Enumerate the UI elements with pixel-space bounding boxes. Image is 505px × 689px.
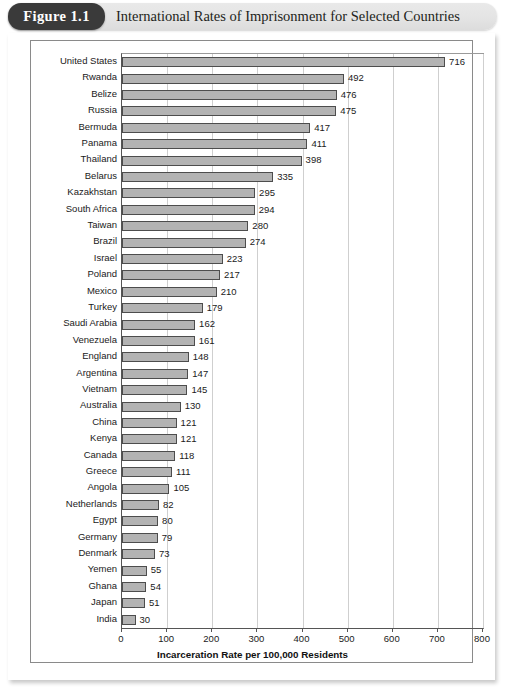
bar-row: 475 <box>122 103 483 119</box>
category-label: United States <box>60 54 117 68</box>
bar <box>122 74 344 84</box>
bar <box>122 516 158 526</box>
bar-row: 73 <box>122 546 483 562</box>
bar-row: 223 <box>122 251 483 267</box>
x-axis-tick <box>302 628 303 632</box>
x-axis-tick <box>347 628 348 632</box>
bar <box>122 123 310 133</box>
bar-row: 210 <box>122 284 483 300</box>
category-label: Angola <box>87 480 117 494</box>
category-label: Turkey <box>88 300 117 314</box>
category-label: Taiwan <box>87 218 117 232</box>
x-axis-tick <box>392 628 393 632</box>
bar <box>122 336 195 346</box>
plot-area: 7164924764754174113983352952942802742232… <box>121 53 484 629</box>
bar <box>122 270 220 280</box>
x-axis-title: Incarceration Rate per 100,000 Residents <box>31 649 474 660</box>
bar-value-label: 121 <box>181 416 197 430</box>
bar-value-label: 121 <box>181 432 197 446</box>
category-label-column: United StatesRwandaBelizeRussiaBermudaPa… <box>31 53 117 627</box>
category-label: Venezuela <box>73 333 117 347</box>
bar-value-label: 80 <box>162 514 173 528</box>
bar <box>122 90 337 100</box>
category-label: Canada <box>84 448 117 462</box>
bar <box>122 238 246 248</box>
category-label: Israel <box>94 251 117 265</box>
bar-value-label: 30 <box>140 613 151 627</box>
bar <box>122 418 177 428</box>
chart-card: United StatesRwandaBelizeRussiaBermudaPa… <box>8 33 495 680</box>
bar <box>122 303 203 313</box>
bar <box>122 500 159 510</box>
category-label: Yemen <box>88 562 117 576</box>
category-label: Brazil <box>93 234 117 248</box>
bar <box>122 221 248 231</box>
bar <box>122 434 177 444</box>
x-axis-tick-label: 600 <box>384 633 400 644</box>
bar <box>122 615 136 625</box>
bar <box>122 320 195 330</box>
bar <box>122 369 188 379</box>
bar <box>122 598 145 608</box>
bar-row: 105 <box>122 480 483 496</box>
category-label: Saudi Arabia <box>63 316 117 330</box>
category-label: Russia <box>88 103 117 117</box>
bar-row: 179 <box>122 300 483 316</box>
bar-row: 130 <box>122 398 483 414</box>
x-axis-tick-label: 300 <box>248 633 264 644</box>
bar-value-label: 162 <box>199 317 215 331</box>
category-label: Bermuda <box>78 120 117 134</box>
bar-row: 411 <box>122 136 483 152</box>
x-axis-tick-label: 200 <box>203 633 219 644</box>
bar <box>122 287 217 297</box>
bar-value-label: 280 <box>252 219 268 233</box>
bar <box>122 352 189 362</box>
bar-row: 54 <box>122 579 483 595</box>
bar <box>122 566 147 576</box>
category-label: Greece <box>86 464 117 478</box>
bar <box>122 205 255 215</box>
bar-row: 476 <box>122 87 483 103</box>
bar-value-label: 475 <box>340 104 356 118</box>
bar-row: 294 <box>122 202 483 218</box>
bar-row: 162 <box>122 316 483 332</box>
bar-value-label: 161 <box>199 334 215 348</box>
bar <box>122 172 273 182</box>
bar <box>122 582 146 592</box>
bar-row: 147 <box>122 366 483 382</box>
bar-value-label: 223 <box>227 252 243 266</box>
bar-value-label: 417 <box>314 121 330 135</box>
x-axis-tick <box>437 628 438 632</box>
x-axis-tick-label: 700 <box>429 633 445 644</box>
x-axis-tick <box>121 628 122 632</box>
bar-value-label: 82 <box>163 498 174 512</box>
bar-row: 217 <box>122 267 483 283</box>
x-axis-tick <box>166 628 167 632</box>
bar <box>122 254 223 264</box>
x-axis-tick <box>482 628 483 632</box>
bar-value-label: 411 <box>311 137 326 151</box>
category-label: India <box>96 612 117 626</box>
bar-value-label: 51 <box>149 596 160 610</box>
bar-value-label: 118 <box>179 449 194 463</box>
bar-value-label: 398 <box>306 153 322 167</box>
bar-value-label: 476 <box>341 88 357 102</box>
bar-value-label: 105 <box>173 481 189 495</box>
category-label: Australia <box>80 398 117 412</box>
bar-row: 30 <box>122 612 483 628</box>
bar-row: 82 <box>122 497 483 513</box>
chart-inner-frame: United StatesRwandaBelizeRussiaBermudaPa… <box>30 40 473 663</box>
bar-value-label: 79 <box>162 531 173 545</box>
bar-value-label: 145 <box>191 383 207 397</box>
bar-value-label: 179 <box>207 301 223 315</box>
category-label: Mexico <box>87 284 117 298</box>
category-label: Thailand <box>81 152 117 166</box>
category-label: Argentina <box>76 366 117 380</box>
bar-value-label: 54 <box>150 580 161 594</box>
bar-row: 492 <box>122 70 483 86</box>
category-label: Germany <box>78 530 117 544</box>
bar-value-label: 148 <box>193 350 209 364</box>
bar <box>122 402 181 412</box>
category-label: Kazakhstan <box>67 185 117 199</box>
gridline <box>483 54 484 628</box>
